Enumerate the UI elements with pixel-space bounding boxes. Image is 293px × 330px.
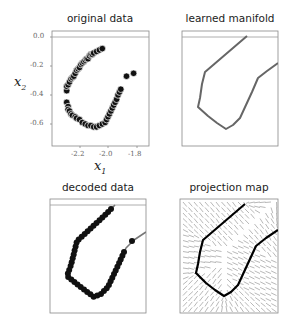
panel-learned-manifold [182,31,278,146]
panel-decoded-data [50,199,146,313]
manifold-curve [198,36,278,129]
scatter-points [63,45,137,130]
decoded-points [65,206,135,300]
figure-canvas [0,0,293,330]
vector-field [183,202,278,312]
panel-projection-map [180,199,278,313]
panel-original-data [50,31,149,148]
